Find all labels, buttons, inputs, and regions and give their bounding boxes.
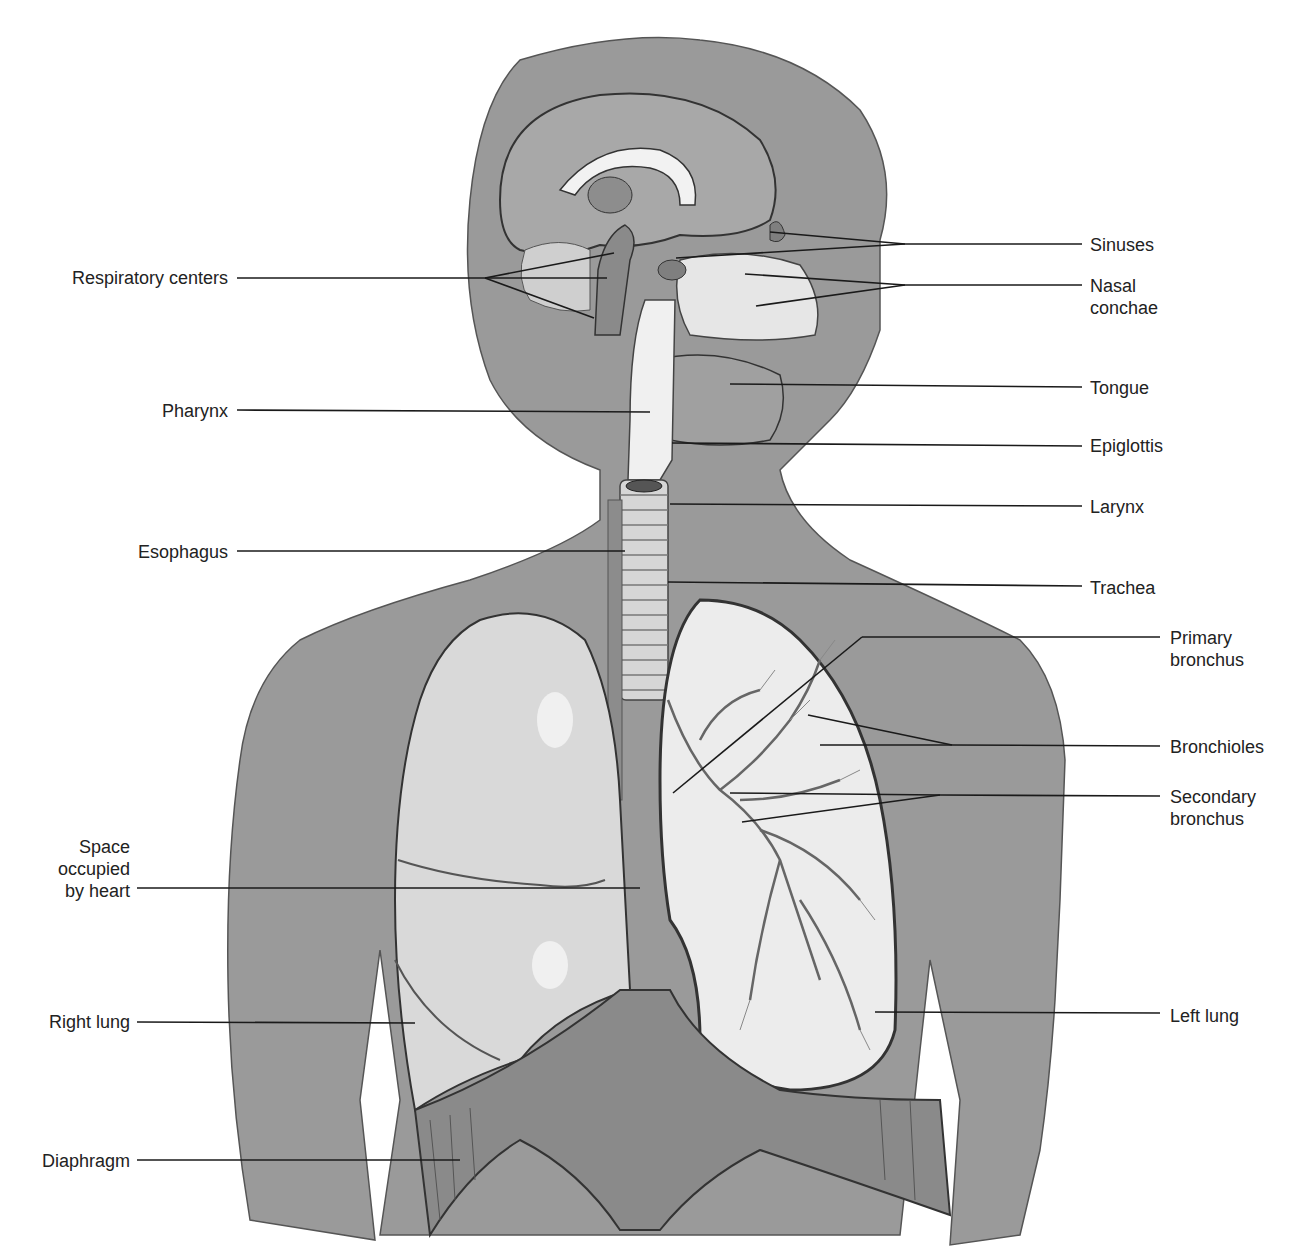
label-larynx: Larynx <box>1090 496 1144 518</box>
label-tongue: Tongue <box>1090 377 1149 399</box>
label-pharynx: Pharynx <box>162 400 228 422</box>
label-respiratory-centers: Respiratory centers <box>72 267 228 289</box>
label-trachea: Trachea <box>1090 577 1155 599</box>
respiratory-diagram: Respiratory centers Pharynx Esophagus Sp… <box>0 0 1304 1253</box>
cerebellum <box>521 243 590 312</box>
sinus-sphenoid <box>658 260 686 280</box>
label-space-occupied-by-heart: Space occupied by heart <box>58 836 130 902</box>
trachea <box>620 480 668 700</box>
label-nasal-conchae: Nasal conchae <box>1090 275 1158 319</box>
label-primary-bronchus: Primary bronchus <box>1170 627 1244 671</box>
thalamus <box>588 177 632 213</box>
label-esophagus: Esophagus <box>138 541 228 563</box>
anatomy-illustration <box>0 0 1304 1253</box>
label-left-lung: Left lung <box>1170 1005 1239 1027</box>
label-diaphragm: Diaphragm <box>42 1150 130 1172</box>
label-sinuses: Sinuses <box>1090 234 1154 256</box>
nasal-cavity <box>677 254 818 340</box>
label-bronchioles: Bronchioles <box>1170 736 1264 758</box>
label-secondary-bronchus: Secondary bronchus <box>1170 786 1256 830</box>
label-right-lung: Right lung <box>49 1011 130 1033</box>
label-epiglottis: Epiglottis <box>1090 435 1163 457</box>
